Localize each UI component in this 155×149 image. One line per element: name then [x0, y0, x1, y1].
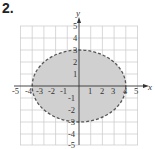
svg-text:3: 3: [111, 86, 115, 96]
svg-text:1: 1: [88, 86, 92, 96]
svg-text:-5: -5: [68, 140, 75, 149]
svg-text:-3: -3: [36, 86, 43, 96]
ellipse-graph: x y -5 -4 -3 -2 -1 1 2 3 4 5 5 4 3 2 1 -…: [0, 0, 155, 149]
svg-text:-3: -3: [68, 117, 75, 127]
svg-text:-2: -2: [68, 105, 75, 115]
svg-text:5: 5: [73, 21, 77, 31]
svg-text:-4: -4: [25, 86, 33, 96]
svg-text:5: 5: [134, 86, 138, 96]
svg-text:-1: -1: [60, 86, 67, 96]
svg-text:2: 2: [100, 86, 104, 96]
svg-text:-5: -5: [12, 86, 19, 96]
svg-text:-1: -1: [68, 93, 75, 103]
svg-text:3: 3: [73, 45, 77, 55]
y-axis-label: y: [75, 8, 80, 18]
svg-text:-2: -2: [48, 86, 55, 96]
svg-text:-4: -4: [68, 129, 76, 139]
svg-text:2: 2: [73, 57, 77, 67]
x-axis-label: x: [147, 82, 152, 92]
svg-text:1: 1: [73, 69, 77, 79]
svg-text:4: 4: [123, 86, 128, 96]
